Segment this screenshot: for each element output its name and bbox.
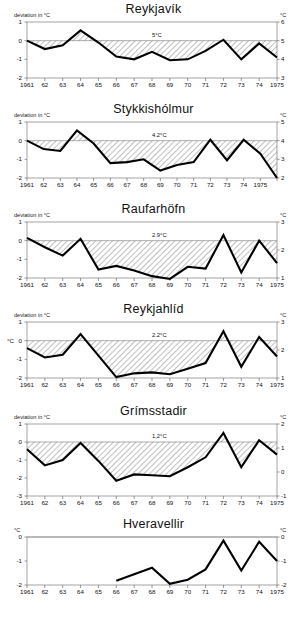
y-tick-label: -1: [0, 557, 22, 564]
y-tick-label: 1: [0, 218, 22, 225]
y-tick-label: -1: [0, 355, 22, 362]
y-tick-label-right: 2: [281, 246, 284, 253]
y-tick-label-right: -2: [281, 581, 287, 588]
y-tick-label-right: 2: [281, 174, 284, 181]
y-tick-label: -2: [0, 474, 22, 481]
chart-panel: Reykjahlíddeviation in °C°C10-1-2321°C19…: [0, 300, 307, 408]
y-tick-label: 1: [0, 420, 22, 427]
y-tick-label-right: 1: [281, 274, 284, 281]
y-tick-label-right: -1: [281, 557, 287, 564]
chart-plot-area: [0, 300, 307, 408]
chart-panel: Hveravellir°C°C0-1-20-1-2196162636465666…: [0, 515, 307, 615]
mean-temperature-annotation: 1,2°C: [152, 433, 167, 439]
y-tick-label-right: -1: [281, 492, 287, 499]
y-tick-label: 0: [0, 533, 22, 540]
y-tick-label-right: 0: [281, 533, 284, 540]
y-tick-label-right: 3: [281, 318, 284, 325]
x-tick-label: 1975: [263, 499, 291, 506]
y-tick-label: -2: [0, 174, 22, 181]
y-tick-label-right: 3: [281, 218, 284, 225]
anomaly-hatched-area: [27, 235, 277, 279]
chart-plot-area: [0, 402, 307, 526]
mean-temperature-annotation: 2.9°C: [152, 232, 167, 238]
y-tick-label: 1: [0, 318, 22, 325]
plot-frame: [27, 537, 277, 585]
y-tick-label-right: 4: [281, 137, 284, 144]
mean-temperature-annotation: 5°C: [152, 32, 162, 38]
y-tick-label: 1: [0, 18, 22, 25]
chart-panel: Stykkishólmurdeviation in °C°C10-1-25432…: [0, 100, 307, 208]
y-tick-label: 0: [0, 137, 22, 144]
chart-panel: Raufarhöfndeviation in °C°C10-1-23211961…: [0, 200, 307, 308]
chart-panel: Grímsstadirdeviation in °C°C10-1-2-3210-…: [0, 402, 307, 526]
chart-panel: Reykjavíkdeviation in °C°C10-1-265431961…: [0, 0, 307, 108]
y-tick-label: -2: [0, 74, 22, 81]
y-tick-label-right: 3: [281, 155, 284, 162]
y-tick-label-right: 5: [281, 118, 284, 125]
chart-plot-area: [0, 515, 307, 615]
y-tick-label: -3: [0, 492, 22, 499]
x-tick-label: 1975: [246, 181, 274, 188]
chart-plot-area: [0, 200, 307, 308]
x-tick-label: 1975: [263, 81, 291, 88]
y-tick-label-right: 1: [281, 374, 284, 381]
x-tick-label: 1975: [263, 381, 291, 388]
y-tick-label-right: 3: [281, 74, 284, 81]
y-tick-label: -1: [0, 255, 22, 262]
y-tick-label: -1: [0, 155, 22, 162]
y-tick-label-right: 0: [281, 468, 284, 475]
y-tick-label: -1: [0, 55, 22, 62]
y-tick-label-right: 2: [281, 420, 284, 427]
y-tick-label: 1: [0, 118, 22, 125]
mean-temperature-annotation: 4.2°C: [152, 132, 167, 138]
chart-plot-area: [0, 100, 307, 208]
y-tick-label: -2: [0, 581, 22, 588]
figure-root: Reykjavíkdeviation in °C°C10-1-265431961…: [0, 0, 307, 621]
y-tick-label-right: 2: [281, 346, 284, 353]
y-tick-label-right: 1: [281, 444, 284, 451]
y-tick-label: 0: [0, 438, 22, 445]
y-tick-label: -1: [0, 456, 22, 463]
y-tick-label: 0: [0, 37, 22, 44]
chart-plot-area: [0, 0, 307, 108]
y-tick-label: -2: [0, 374, 22, 381]
y-tick-label-right: 4: [281, 55, 284, 62]
temperature-deviation-curve: [116, 541, 277, 584]
y-tick-label-right: 5: [281, 37, 284, 44]
x-tick-label: 1975: [263, 588, 291, 595]
y-tick-label: 0: [0, 237, 22, 244]
y-tick-label: -2: [0, 274, 22, 281]
mean-temperature-annotation: 2.2°C: [152, 332, 167, 338]
x-tick-label: 1975: [263, 281, 291, 288]
y-tick-label-right: 6: [281, 18, 284, 25]
y-axis-unit-inline: °C: [0, 337, 14, 344]
